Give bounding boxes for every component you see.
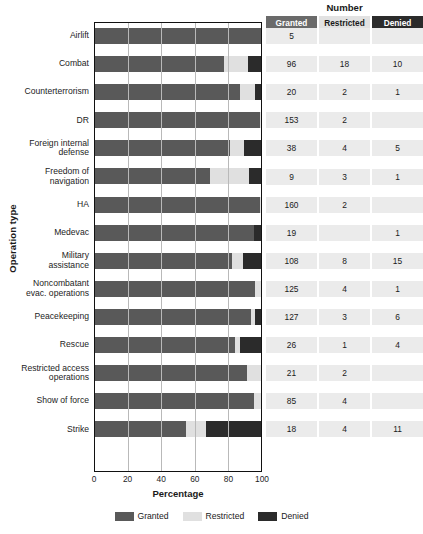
bar-segment-restricted bbox=[210, 168, 249, 184]
bar-segment-restricted bbox=[232, 253, 242, 269]
table-cell-granted: 18 bbox=[266, 421, 317, 437]
table-cell-denied bbox=[372, 197, 423, 213]
table-cell-restricted: 18 bbox=[319, 56, 370, 72]
bar-track bbox=[94, 219, 262, 247]
table-row: 191 bbox=[266, 219, 423, 247]
table-cell-granted: 160 bbox=[266, 197, 317, 213]
bar-track bbox=[94, 275, 262, 303]
table-cell-granted: 153 bbox=[266, 112, 317, 128]
category-label: Foreign internaldefense bbox=[0, 139, 94, 158]
bar-segment-restricted bbox=[247, 365, 262, 381]
table-cell-restricted: 4 bbox=[319, 421, 370, 437]
table-row: 18411 bbox=[266, 415, 423, 443]
category-label: Noncombatantevac. operations bbox=[0, 279, 94, 298]
category-label: Show of force bbox=[0, 396, 94, 406]
bar-segment-restricted bbox=[240, 84, 255, 100]
bar-segment-denied bbox=[261, 281, 262, 297]
x-tick-0: 0 bbox=[92, 474, 97, 484]
table-cell-restricted: 2 bbox=[319, 197, 370, 213]
table-cell-denied: 15 bbox=[372, 253, 423, 269]
bar-segment-granted bbox=[94, 337, 235, 353]
bar-segment-denied bbox=[255, 309, 262, 325]
table-row: 1532 bbox=[266, 106, 423, 134]
bar-segment-denied bbox=[240, 337, 262, 353]
category-label: Militaryassistance bbox=[0, 251, 94, 270]
bar-track bbox=[94, 134, 262, 162]
table-row: 2614 bbox=[266, 331, 423, 359]
table-row: 2021 bbox=[266, 78, 423, 106]
bar-track bbox=[94, 50, 262, 78]
stacked-bar bbox=[94, 28, 262, 44]
chart-legend: GrantedRestrictedDenied bbox=[0, 511, 423, 521]
bar-segment-denied bbox=[255, 84, 262, 100]
table-cell-denied bbox=[372, 365, 423, 381]
table-row: 961810 bbox=[266, 50, 423, 78]
bar-segment-denied bbox=[254, 225, 262, 241]
bar-track bbox=[94, 22, 262, 50]
legend-swatch-denied bbox=[258, 512, 277, 521]
bar-track bbox=[94, 247, 262, 275]
stacked-bar bbox=[94, 140, 262, 156]
x-tick-100: 100 bbox=[255, 474, 269, 484]
table-cell-restricted: 4 bbox=[319, 140, 370, 156]
bar-track bbox=[94, 331, 262, 359]
table-row: 931 bbox=[266, 162, 423, 190]
bar-segment-denied bbox=[206, 421, 262, 437]
bar-track bbox=[94, 359, 262, 387]
legend-label: Restricted bbox=[206, 511, 245, 521]
table-row: 12736 bbox=[266, 303, 423, 331]
category-label: Restricted accessoperations bbox=[0, 364, 94, 383]
bar-segment-granted bbox=[94, 225, 254, 241]
legend-item: Granted bbox=[115, 511, 169, 521]
x-tick-20: 20 bbox=[123, 474, 132, 484]
table-cell-restricted: 4 bbox=[319, 281, 370, 297]
stacked-bar bbox=[94, 56, 262, 72]
category-label: HA bbox=[0, 200, 94, 210]
bar-track bbox=[94, 415, 262, 443]
table-cell-denied: 5 bbox=[372, 140, 423, 156]
bar-segment-granted bbox=[94, 197, 260, 213]
category-label: Combat bbox=[0, 59, 94, 69]
bar-segment-denied bbox=[248, 56, 262, 72]
legend-label: Granted bbox=[138, 511, 169, 521]
bar-segment-denied bbox=[244, 140, 262, 156]
stacked-bar bbox=[94, 421, 262, 437]
table-cell-granted: 38 bbox=[266, 140, 317, 156]
table-cell-denied: 6 bbox=[372, 309, 423, 325]
category-label: Medevac bbox=[0, 228, 94, 238]
bar-segment-restricted bbox=[230, 140, 244, 156]
x-tick-60: 60 bbox=[190, 474, 199, 484]
category-label: Airlift bbox=[0, 31, 94, 41]
table-cell-denied: 1 bbox=[372, 84, 423, 100]
bar-track bbox=[94, 106, 262, 134]
bar-segment-granted bbox=[94, 421, 186, 437]
bar-segment-granted bbox=[94, 56, 224, 72]
table-cell-denied bbox=[372, 28, 423, 44]
legend-item: Denied bbox=[258, 511, 308, 521]
bar-track bbox=[94, 162, 262, 190]
bar-segment-granted bbox=[94, 393, 254, 409]
table-cell-granted: 5 bbox=[266, 28, 317, 44]
stacked-bar bbox=[94, 365, 262, 381]
table-cell-denied: 10 bbox=[372, 56, 423, 72]
table-cell-denied bbox=[372, 393, 423, 409]
table-cell-denied: 11 bbox=[372, 421, 423, 437]
table-title: Number bbox=[266, 2, 423, 13]
table-row: 108815 bbox=[266, 247, 423, 275]
category-label: Freedom ofnavigation bbox=[0, 167, 94, 186]
legend-label: Denied bbox=[281, 511, 308, 521]
stacked-bar bbox=[94, 337, 262, 353]
table-body: 5961810202115323845931160219110881512541… bbox=[266, 22, 423, 443]
bar-track bbox=[94, 303, 262, 331]
table-cell-restricted: 4 bbox=[319, 393, 370, 409]
stacked-bar bbox=[94, 168, 262, 184]
stacked-bar bbox=[94, 84, 262, 100]
table-cell-restricted: 2 bbox=[319, 365, 370, 381]
legend-swatch-granted bbox=[115, 512, 134, 521]
bar-segment-granted bbox=[94, 168, 210, 184]
bar-segment-granted bbox=[94, 253, 232, 269]
table-row: 854 bbox=[266, 387, 423, 415]
table-cell-restricted: 2 bbox=[319, 84, 370, 100]
table-row: 5 bbox=[266, 22, 423, 50]
category-label: Strike bbox=[0, 425, 94, 435]
